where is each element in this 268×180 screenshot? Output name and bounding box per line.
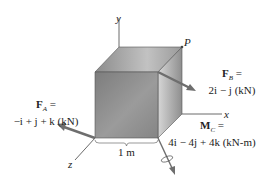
- force-b-label: FB = 2i − j (kN): [200, 67, 264, 96]
- force-a-label: FA = −i + j + k (kN): [6, 98, 86, 127]
- y-axis-label: y: [116, 12, 121, 24]
- point-p: [181, 46, 184, 49]
- moment-c-value: 4i − 4j + 4k (kN-m): [168, 136, 255, 148]
- force-b-value: 2i − j (kN): [209, 84, 256, 96]
- z-axis-label: z: [68, 158, 72, 170]
- point-p-label: P: [184, 36, 191, 48]
- force-a-value: −i + j + k (kN): [14, 115, 79, 127]
- moment-c-label: MC = 4i − 4j + 4k (kN-m): [162, 119, 262, 148]
- dimension-label: 1 m: [118, 146, 135, 158]
- force-a-arrow: [64, 127, 95, 138]
- cube-front-face: [95, 72, 158, 138]
- z-axis: [75, 138, 95, 160]
